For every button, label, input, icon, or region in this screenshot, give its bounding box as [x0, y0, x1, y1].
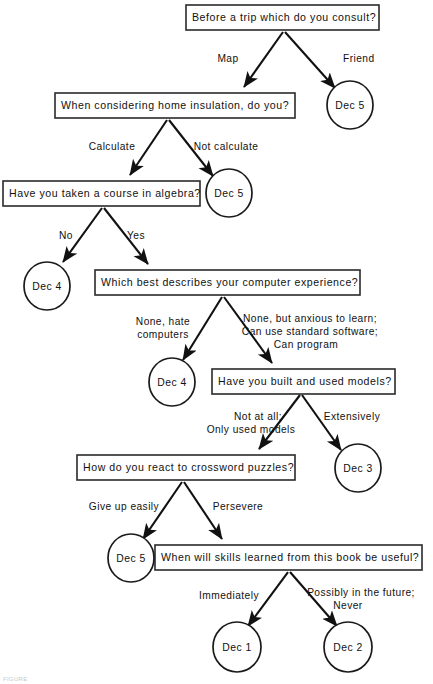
node-q2-home-insulation[interactable]: When considering home insulation, do you… [55, 93, 295, 118]
edge-q1-to-q2 [244, 32, 283, 87]
node-leaf-dec5-a-label: Dec 5 [335, 100, 365, 111]
node-leaf-dec5-b-label: Dec 5 [214, 188, 244, 199]
node-leaf-dec3-label: Dec 3 [343, 463, 373, 474]
node-q6-label: How do you react to crossword puzzles? [83, 461, 294, 473]
node-leaf-dec1-label: Dec 1 [222, 642, 252, 653]
edge-label-persevere: Persevere [213, 501, 263, 512]
node-q6-crossword-puzzles[interactable]: How do you react to crossword puzzles? [77, 455, 295, 480]
node-q5-label: Have you built and used models? [218, 375, 392, 387]
edge-label-not-calculate: Not calculate [194, 141, 259, 152]
node-q1-label: Before a trip which do you consult? [192, 11, 376, 23]
node-leaf-dec5-c-label: Dec 5 [116, 553, 146, 564]
edge-label-extensively: Extensively [324, 411, 381, 422]
node-leaf-dec1[interactable]: Dec 1 [213, 622, 261, 672]
edge-label-map: Map [217, 53, 238, 64]
edge-q5-to-q6 [259, 395, 300, 449]
node-q7-label: When will skills learned from this book … [161, 551, 419, 563]
node-q2-label: When considering home insulation, do you… [61, 99, 289, 111]
edge-label-possibly-line1: Possibly in the future; [307, 587, 415, 598]
edge-q5-to-dec3 [302, 395, 341, 450]
node-q4-computer-experience[interactable]: Which best describes your computer exper… [95, 270, 360, 295]
edge-label-models-line1: Not at all; [234, 411, 282, 422]
edge-q7-to-dec2 [290, 572, 337, 626]
edge-q1-to-dec5-a [285, 32, 335, 88]
node-q3-algebra-course[interactable]: Have you taken a course in algebra? [3, 181, 201, 206]
edge-label-none-hate-line2: computers [137, 329, 189, 340]
node-q1-before-a-trip[interactable]: Before a trip which do you consult? [186, 5, 379, 30]
node-leaf-dec4-b-label: Dec 4 [157, 377, 187, 388]
edge-label-yes: Yes [127, 230, 145, 241]
node-leaf-dec2-label: Dec 2 [333, 642, 363, 653]
node-leaf-dec4-b[interactable]: Dec 4 [149, 358, 195, 406]
edge-label-friend: Friend [343, 53, 375, 64]
node-leaf-dec5-c[interactable]: Dec 5 [108, 534, 154, 582]
node-q4-label: Which best describes your computer exper… [101, 276, 358, 288]
edge-label-models-line2: Only used models [207, 424, 296, 435]
decision-tree-diagram: Map Friend Calculate Not calculate No Ye… [0, 0, 433, 684]
node-leaf-dec4-a[interactable]: Dec 4 [24, 262, 70, 310]
edge-label-immediately: Immediately [199, 590, 259, 601]
edge-label-anxious-line2: Can use standard software; [242, 326, 378, 337]
node-leaf-dec5-a[interactable]: Dec 5 [327, 81, 373, 129]
edge-label-give-up: Give up easily [89, 501, 160, 512]
node-leaf-dec2[interactable]: Dec 2 [324, 622, 372, 672]
node-q5-built-used-models[interactable]: Have you built and used models? [212, 369, 395, 394]
node-q3-label: Have you taken a course in algebra? [9, 187, 201, 199]
edge-label-possibly-line2: Never [333, 600, 363, 611]
edge-q4-to-dec4-b [183, 297, 222, 360]
edge-label-none-hate-line1: None, hate [136, 316, 190, 327]
node-leaf-dec3[interactable]: Dec 3 [335, 444, 381, 492]
edge-q2-to-q3 [130, 120, 167, 175]
edge-label-anxious-line1: None, but anxious to learn; [243, 313, 377, 324]
node-leaf-dec4-a-label: Dec 4 [32, 281, 62, 292]
edge-label-calculate: Calculate [89, 141, 136, 152]
edge-label-no: No [59, 230, 73, 241]
edge-label-anxious-line3: Can program [274, 339, 338, 350]
node-q7-skills-useful[interactable]: When will skills learned from this book … [155, 545, 422, 570]
node-leaf-dec5-b[interactable]: Dec 5 [206, 169, 252, 217]
figure-caption: FIGURE [3, 676, 27, 682]
